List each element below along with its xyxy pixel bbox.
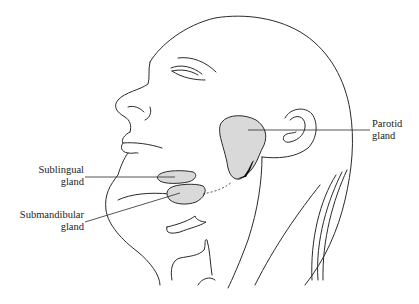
submandibular-gland [167,184,205,204]
sublingual-label: Sublingual gland [30,164,84,188]
neck-line-1 [255,185,320,285]
upper-lip [122,132,162,148]
hyoid [167,216,206,233]
lower-lip-chin [106,143,160,285]
submandibular-label-line1: Submandibular [8,209,84,221]
submandibular-label: Submandibular gland [8,209,84,233]
salivary-glands-diagram: Parotid gland Sublingual gland Submandib… [0,0,419,304]
submandibular-leader-line [85,193,180,222]
forehead-nose-profile [116,62,150,132]
parotid-label-line1: Parotid [372,118,402,130]
sublingual-label-line2: gland [30,176,84,188]
ear-inner [283,117,305,143]
submandibular-label-line2: gland [8,221,84,233]
parotid-label: Parotid gland [372,118,402,142]
neck-line-3 [318,172,342,280]
parotid-label-line2: gland [372,130,402,142]
sublingual-label-line1: Sublingual [30,164,84,176]
nostril [128,106,151,120]
eye-lower [172,70,205,80]
head-illustration [0,0,419,304]
parotid-gland [220,116,266,179]
wharton-duct [203,182,232,194]
larynx [171,240,215,285]
